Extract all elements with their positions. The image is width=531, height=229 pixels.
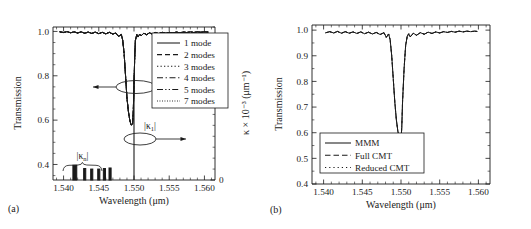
x-tick-label: 1.555 [429, 187, 450, 197]
legend-label-1: 2 modes [184, 50, 215, 60]
panel-b-curves [326, 31, 477, 140]
x-tick-label: 1.560 [468, 187, 489, 197]
panel-a-ylabel: Transmission [12, 76, 23, 130]
kappa-n-bar [91, 169, 93, 180]
panel-a-y2label: κ × 10⁻³ (μm⁻¹) [240, 71, 252, 135]
kappa-n-bar [73, 165, 77, 180]
kappa-n-bar [109, 168, 111, 180]
panel-b-svg: 1.5401.5451.5501.5551.5601.00.90.80.70.6… [265, 0, 531, 229]
y-tick-label: 0.6 [297, 128, 309, 138]
x-tick-label: 1.550 [124, 183, 145, 193]
kappa-n-brace [63, 162, 102, 171]
figure-container: 1.5401.5451.5501.5551.5600.40.60.81.001 … [0, 0, 531, 229]
y-tick-label: 1.0 [297, 25, 309, 35]
kappa-n-bar [84, 169, 86, 180]
legend-label-3: 4 modes [184, 73, 215, 83]
legend-label-0: MMM [355, 138, 380, 148]
kappa-n-bars [73, 165, 111, 180]
x-tick-label: 1.550 [391, 187, 412, 197]
panel-a-xlabel: Wavelength (μm) [99, 195, 169, 207]
x-tick-label: 1.540 [53, 183, 74, 193]
y-tick-label: 1.0 [38, 27, 50, 37]
y-tick-label: 0.4 [38, 160, 50, 170]
x-tick-label: 1.540 [313, 187, 334, 197]
x-tick-label: 1.545 [88, 183, 109, 193]
legend-label-2: Reduced CMT [355, 163, 410, 173]
legend-label-1: Full CMT [355, 151, 392, 161]
y-tick-label: 0.9 [297, 51, 309, 61]
x-tick-label: 1.560 [194, 183, 215, 193]
panel-b-xlabel: Wavelength (μm) [366, 199, 436, 211]
panel-a-label: (a) [8, 203, 19, 215]
x-tick-label: 1.555 [159, 183, 180, 193]
kappa-n-bar [103, 169, 105, 180]
y-tick-label: 0.4 [297, 179, 309, 189]
y-tick-label: 0.8 [297, 77, 309, 87]
legend-label-4: 5 modes [184, 85, 215, 95]
legend-label-0: 1 mode [184, 38, 211, 48]
y-tick-label: 0.5 [297, 154, 309, 164]
panel-b: 1.5401.5451.5501.5551.5601.00.90.80.70.6… [265, 0, 531, 229]
spike-annotation-ellipse-arrow [124, 133, 186, 145]
dip-annotation-ellipse-arrow [93, 81, 156, 94]
transmission-curve-1 [326, 31, 477, 140]
kappa-n-label: |κn| [77, 151, 89, 162]
legend-label-2: 3 modes [184, 62, 215, 72]
panel-b-ylabel: Transmission [273, 77, 284, 131]
y-tick-label: 0.8 [38, 71, 50, 81]
kappa-n-bar [98, 169, 100, 180]
panel-a: 1.5401.5451.5501.5551.5600.40.60.81.001 … [0, 0, 265, 229]
y2-tick-label: 0 [219, 175, 224, 185]
kappa-1-label: |κ1| [144, 121, 156, 132]
y-tick-label: 0.6 [38, 115, 50, 125]
panel-b-label: (b) [270, 204, 282, 216]
y-tick-label: 0.7 [297, 102, 309, 112]
legend-label-5: 7 modes [184, 96, 215, 106]
panel-a-svg: 1.5401.5451.5501.5551.5600.40.60.81.001 … [0, 0, 265, 229]
x-tick-label: 1.545 [352, 187, 373, 197]
